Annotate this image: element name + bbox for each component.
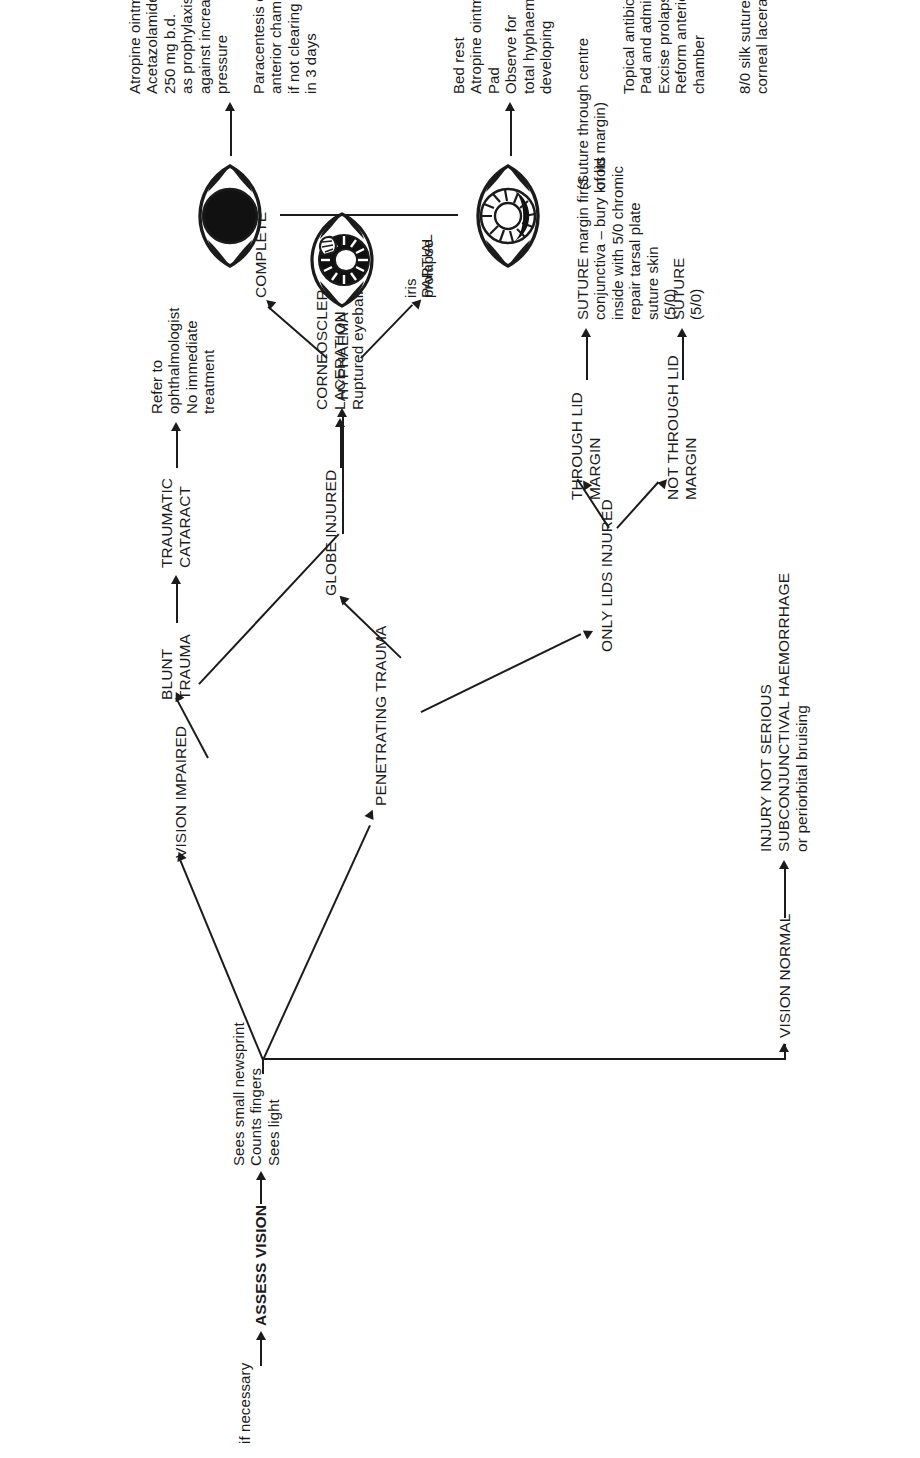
arrowhead-ifnecessary-assess: [256, 1331, 266, 1340]
arrowhead-cataract-treatment: [171, 422, 181, 431]
arrowhead-corneoscleral: [335, 418, 345, 427]
eye-partial-hyphaema-illustration: [460, 162, 556, 270]
connector-bus-vision-impaired: [179, 860, 263, 1060]
bus-vertical-main: [262, 1058, 785, 1060]
node-assess-vision: ASSESS VISION: [252, 1205, 270, 1326]
arrowhead-complete-treatment: [225, 102, 235, 111]
arrowhead-complete: [263, 296, 276, 309]
connector-lids-notthrough: [616, 481, 659, 528]
arrowhead-partial: [411, 296, 424, 309]
connector-blunt-elbow-diag: [198, 533, 339, 684]
node-blunt-trauma: BLUNT TRAUMA: [158, 634, 194, 700]
connector-blunt-elbow-h: [342, 414, 344, 534]
node-suture-note: (Suture through centre of lid margin): [574, 38, 609, 190]
arrowhead-visionnormal-injury: [779, 860, 789, 869]
eye-iris-prolapse-illustration: [292, 210, 392, 310]
connector-blunt-cataract: [176, 581, 178, 623]
node-penetrating-trauma: PENETRATING TRAUMA: [372, 626, 390, 806]
arrowhead-assess-tests: [256, 1171, 266, 1180]
arrowhead-blunt-cataract: [171, 575, 181, 584]
connector-through-suturemargin: [586, 334, 588, 380]
connector-hyphaema-partial: [360, 304, 413, 358]
connector-notthrough-suture: [682, 334, 684, 380]
eye-complete-hyphaema-illustration: [182, 162, 278, 270]
flowchart-canvas: if necessary ASSESS VISION Sees small ne…: [0, 0, 920, 1458]
node-complete-treatment: Atropine ointment Acetazolamide 250 mg b…: [126, 0, 230, 94]
node-vision-normal: VISION NORMAL: [776, 914, 794, 1038]
connector-globe-corneoscleral: [340, 424, 342, 468]
connector-visionnormal-injury: [784, 866, 786, 918]
node-globe-injured: GLOBE INJURED: [322, 470, 340, 596]
node-vision-impaired: VISION IMPAIRED: [172, 726, 190, 858]
arrowhead-penetrating: [364, 808, 377, 820]
arrowhead-suture-simple: [677, 328, 687, 337]
connector-ifnecessary-assess: [260, 1338, 262, 1366]
node-cataract-treatment: Refer to ophthalmologist No immediate tr…: [148, 307, 218, 414]
connector-penetrating-lids: [420, 633, 581, 713]
node-partial-treatment: Bed rest Atropine ointment Pad Observe f…: [450, 0, 554, 94]
arrowhead-bus-vision-normal: [779, 1043, 789, 1052]
arrowhead-only-lids: [583, 627, 595, 640]
node-globe-treatment-2: 8/0 silk suture corneal laceration: [736, 0, 771, 94]
node-only-lids-injured: ONLY LIDS INJURED: [598, 499, 616, 652]
arrowhead-partial-treatment: [505, 102, 515, 111]
connector-bus-penetrating: [262, 825, 371, 1060]
connector-partial-treatment: [510, 108, 512, 156]
arrowhead-suture-margin: [581, 328, 591, 337]
node-injury-not-serious: INJURY NOT SERIOUS SUBCONJUNCTIVAL HAEMO…: [757, 573, 811, 852]
figure-caption-partial: [6, 1442, 9, 1456]
node-iris-prolapse-label: iris prolapse: [402, 240, 437, 298]
connector-assess-tests: [260, 1178, 262, 1204]
connector-complete-treatment: [230, 108, 232, 156]
node-if-necessary: if necessary: [236, 1363, 253, 1444]
node-complete-treatment-2: Paracentesis of anterior chamber if not …: [250, 0, 320, 94]
node-traumatic-cataract: TRAUMATIC CATARACT: [158, 478, 194, 568]
node-globe-treatment: Topical antibiotic Pad and admit Excise …: [620, 0, 707, 94]
connector-cataract-treatment: [176, 428, 178, 468]
